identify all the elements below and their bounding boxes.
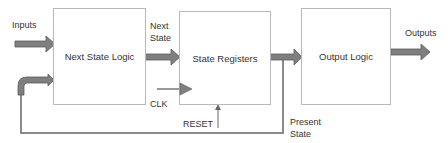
state-registers-label: State Registers xyxy=(193,53,258,64)
output-logic-label: Output Logic xyxy=(319,51,373,62)
state-registers-block: State Registers xyxy=(179,11,271,105)
next-state-logic-block: Next State Logic xyxy=(53,8,146,105)
next-state-arrow xyxy=(145,49,180,65)
present-state-label: Present State xyxy=(290,116,321,140)
feedback-arrow xyxy=(18,74,54,95)
inputs-label: Inputs xyxy=(12,19,37,31)
outputs-arrow xyxy=(391,44,430,60)
clk-label: CLK xyxy=(150,98,168,110)
next-state-logic-label: Next State Logic xyxy=(65,51,135,62)
present-state-arrow xyxy=(270,49,302,65)
next-state-label: Next State xyxy=(150,20,171,44)
reset-label: RESET xyxy=(183,118,213,130)
output-logic-block: Output Logic xyxy=(301,8,391,105)
inputs-arrow xyxy=(15,36,55,52)
outputs-label: Outputs xyxy=(405,27,437,39)
